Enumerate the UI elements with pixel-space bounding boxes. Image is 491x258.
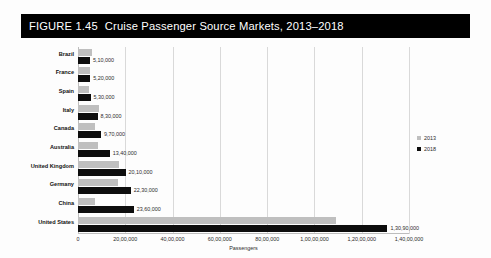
bar-value-label: 22,30,000 [134, 186, 158, 195]
x-tick-label: 40,00,000 [161, 236, 185, 242]
x-tick-label: 20,00,000 [113, 236, 137, 242]
category-label: China [21, 199, 74, 207]
legend: 20132018 [417, 133, 467, 155]
bar-2013 [78, 198, 95, 205]
figure-title: Cruise Passenger Source Markets, 2013–20… [105, 20, 344, 32]
bar-2018 [78, 75, 90, 82]
category-label: France [21, 68, 74, 76]
bar-group: 23,60,000 [78, 198, 409, 215]
bar-2013 [78, 123, 95, 130]
chart-area: 5,10,0005,20,0005,30,0008,30,0009,70,000… [21, 41, 470, 251]
category-label: Germany [21, 180, 74, 188]
bar-group: 5,10,000 [78, 49, 409, 66]
figure-title-banner: FIGURE 1.45 Cruise Passenger Source Mark… [21, 14, 470, 38]
legend-label: 2018 [424, 146, 436, 152]
bar-2013 [78, 179, 118, 186]
bar-group: 13,40,000 [78, 142, 409, 159]
bar-2018 [78, 57, 90, 64]
bar-2018 [78, 150, 110, 157]
legend-swatch [417, 147, 421, 151]
bar-2018 [78, 169, 126, 176]
x-axis-title: Passengers [78, 245, 409, 251]
bar-2018 [78, 94, 91, 101]
x-tick-label: 1,00,00,000 [300, 236, 328, 242]
bar-value-label: 13,40,000 [113, 149, 137, 158]
category-label: Brazil [21, 50, 74, 58]
bar-group: 1,30,90,000 [78, 217, 409, 234]
x-tick-label: 1,20,00,000 [347, 236, 375, 242]
bar-value-label: 1,30,90,000 [390, 224, 418, 233]
legend-label: 2013 [424, 135, 436, 141]
bar-group: 5,20,000 [78, 67, 409, 84]
legend-item: 2013 [417, 133, 467, 142]
bar-2013 [78, 142, 98, 149]
bar-2018 [78, 206, 134, 213]
bar-value-label: 5,20,000 [93, 74, 114, 83]
bar-group: 5,30,000 [78, 86, 409, 103]
bar-2013 [78, 161, 119, 168]
bar-value-label: 5,10,000 [93, 56, 114, 65]
bar-group: 9,70,000 [78, 123, 409, 140]
bar-2013 [78, 86, 89, 93]
bar-2018 [78, 113, 98, 120]
bar-value-label: 8,30,000 [101, 112, 122, 121]
legend-item: 2018 [417, 144, 467, 153]
figure-number: FIGURE 1.45 [29, 20, 98, 32]
plot-region: 5,10,0005,20,0005,30,0008,30,0009,70,000… [78, 47, 409, 234]
category-label: United States [21, 218, 74, 226]
bar-2018 [78, 131, 101, 138]
category-label: Spain [21, 87, 74, 95]
bar-value-label: 5,30,000 [94, 93, 115, 102]
category-label: Canada [21, 124, 74, 132]
bar-group: 8,30,000 [78, 105, 409, 122]
bar-2013 [78, 67, 90, 74]
bar-2013 [78, 105, 99, 112]
category-label: Italy [21, 106, 74, 114]
legend-swatch [417, 136, 421, 140]
bar-2018 [78, 225, 387, 232]
bar-value-label: 20,10,000 [129, 168, 153, 177]
x-tick-label: 80,00,000 [255, 236, 279, 242]
bar-value-label: 23,60,000 [137, 205, 161, 214]
category-label: United Kingdom [21, 162, 74, 170]
bar-2018 [78, 187, 131, 194]
bar-group: 22,30,000 [78, 179, 409, 196]
bar-value-label: 9,70,000 [104, 130, 125, 139]
gridline [409, 47, 410, 234]
bar-group: 20,10,000 [78, 161, 409, 178]
bar-2013 [78, 217, 336, 224]
x-tick-label: 60,00,000 [208, 236, 232, 242]
figure-container: FIGURE 1.45 Cruise Passenger Source Mark… [0, 0, 491, 258]
x-tick-label: 0 [77, 236, 80, 242]
category-label: Australia [21, 143, 74, 151]
x-tick-label: 1,40,00,000 [395, 236, 423, 242]
bar-2013 [78, 49, 92, 56]
